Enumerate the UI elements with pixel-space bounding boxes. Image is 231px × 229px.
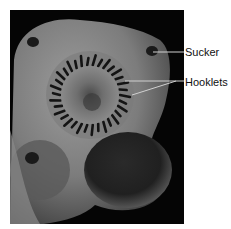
sucker-top-right (146, 46, 158, 56)
lower-lobe (84, 132, 172, 208)
hooklet (55, 106, 62, 107)
hooklet (53, 93, 60, 95)
hooklet (92, 125, 93, 135)
rostellum-center (83, 93, 101, 111)
hooklet (81, 56, 82, 66)
micrograph-photo (10, 10, 184, 225)
hooklets-label: Hooklets (185, 76, 228, 88)
hooklet (119, 89, 126, 90)
hooklet (75, 61, 76, 68)
sucker-bottom-left (25, 152, 39, 164)
hooklet (87, 58, 88, 65)
hooklet (118, 82, 128, 84)
sucker-label: Sucker (185, 46, 219, 58)
scolex-micrograph-figure (0, 0, 231, 229)
sucker-top-left (27, 37, 39, 47)
